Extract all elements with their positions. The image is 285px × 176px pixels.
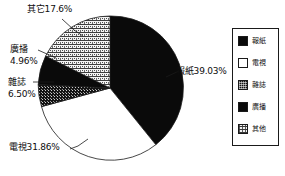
slice-callout-newspaper: 報紙39.03%	[176, 66, 227, 77]
slice-callout-radio-value: 4.96%	[10, 55, 38, 67]
legend-swatch-other	[238, 124, 248, 134]
slice-callout-magazine: 雜誌 6.50%	[8, 76, 36, 100]
pie-chart-figure: 其它17.6% 廣播 4.96% 雜誌 6.50% 電視31.86% 報紙39.…	[0, 0, 285, 176]
slice-callout-television: 電視31.86%	[9, 142, 60, 153]
slice-callout-radio: 廣播 4.96%	[10, 43, 38, 67]
legend-swatch-newspaper	[238, 36, 248, 46]
legend-label-other: 其他	[252, 125, 266, 133]
legend-swatch-magazine	[238, 80, 248, 90]
slice-callout-radio-name: 廣播	[10, 43, 38, 55]
legend-label-magazine: 雜誌	[252, 81, 266, 89]
chart-legend: 報紙 電視 雜誌 廣播 其他	[232, 28, 279, 146]
slice-callout-magazine-value: 6.50%	[8, 88, 36, 100]
legend-item-radio: 廣播	[238, 102, 266, 112]
slice-callout-magazine-name: 雜誌	[8, 76, 36, 88]
legend-label-television: 電視	[252, 59, 266, 67]
legend-label-radio: 廣播	[252, 103, 266, 111]
legend-label-newspaper: 報紙	[252, 37, 266, 45]
legend-item-magazine: 雜誌	[238, 80, 266, 90]
legend-item-television: 電視	[238, 58, 266, 68]
legend-item-newspaper: 報紙	[238, 36, 266, 46]
legend-swatch-television	[238, 58, 248, 68]
legend-item-other: 其他	[238, 124, 266, 134]
slice-callout-other: 其它17.6%	[27, 4, 72, 15]
legend-swatch-radio	[238, 102, 248, 112]
